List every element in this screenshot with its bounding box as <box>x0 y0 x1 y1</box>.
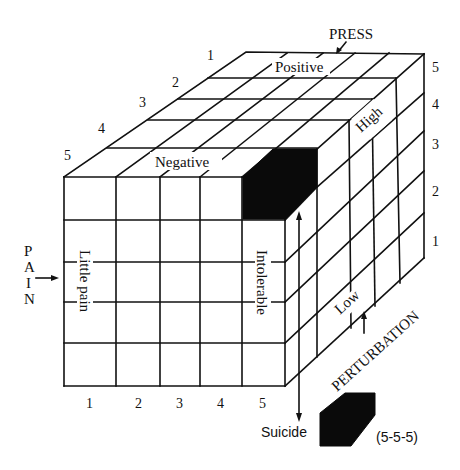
perturbation-tick-2: 2 <box>432 184 439 199</box>
pain-low-label: Little pain <box>77 250 93 313</box>
pain-tick-5: 5 <box>259 396 266 411</box>
pain-tick-1: 1 <box>86 396 93 411</box>
press-high-label: Positive <box>275 59 324 75</box>
perturbation-tick-4: 4 <box>432 97 439 112</box>
suicide-label: Suicide <box>261 424 307 440</box>
press-low-label: Negative <box>155 154 209 170</box>
svg-text:P: P <box>24 243 32 259</box>
press-tick-1: 1 <box>207 48 214 63</box>
perturbation-axis-title: PERTURBATION <box>328 308 422 395</box>
pain-tick-4: 4 <box>217 396 224 411</box>
press-tick-4: 4 <box>98 121 105 136</box>
perturbation-tick-1: 1 <box>432 234 439 249</box>
suicide-coordinates: (5-5-5) <box>376 429 418 445</box>
pain-tick-2: 2 <box>135 396 142 411</box>
perturbation-tick-5: 5 <box>432 60 439 75</box>
svg-text:A: A <box>24 259 35 275</box>
pain-high-label: Intolerable <box>254 250 270 315</box>
svg-text:N: N <box>24 291 35 307</box>
pain-arrow-icon <box>36 275 59 281</box>
press-axis-title: PRESS <box>329 26 373 42</box>
press-tick-2: 2 <box>172 75 179 90</box>
suicide-cell <box>243 149 317 219</box>
perturbation-tick-3: 3 <box>432 137 439 152</box>
suicide-cube-icon <box>320 393 375 446</box>
pain-tick-3: 3 <box>176 396 183 411</box>
svg-text:I: I <box>26 275 31 291</box>
press-arrow-icon <box>336 42 346 54</box>
suicide-arrow-icon <box>296 211 302 422</box>
press-tick-3: 3 <box>139 95 146 110</box>
cubic-model-diagram: PRESS Positive Negative 1 2 3 4 5 P A I … <box>0 0 460 470</box>
perturbation-low-label: Low <box>331 287 362 317</box>
pain-axis-title: P A I N <box>24 243 35 307</box>
press-tick-5: 5 <box>64 148 71 163</box>
